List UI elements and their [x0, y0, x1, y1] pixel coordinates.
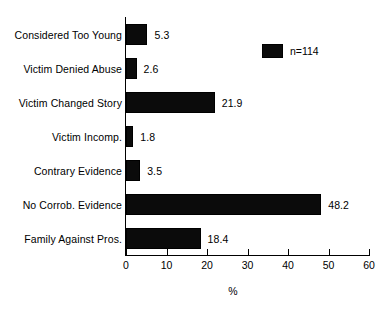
x-axis-tick: [369, 249, 370, 256]
category-label: Considered Too Young: [15, 29, 122, 41]
x-axis-tick-label: 50: [323, 259, 335, 271]
x-axis-tick: [167, 249, 168, 256]
bar-value-label: 18.4: [208, 233, 229, 245]
x-axis-title: %: [0, 285, 378, 297]
category-label: Victim Changed Story: [19, 97, 122, 109]
x-axis-tick-label: 60: [363, 259, 375, 271]
x-axis-tick-label: 0: [123, 259, 129, 271]
bar-value-label: 2.6: [144, 63, 159, 75]
bar: [126, 194, 321, 215]
y-axis-line: [125, 17, 126, 256]
bar-chart: Considered Too Young Victim Denied Abuse…: [0, 0, 378, 312]
x-axis-title-text: %: [228, 285, 237, 297]
x-axis-tick: [207, 249, 208, 256]
bar-value-label: 5.3: [154, 29, 169, 41]
x-axis-tick-label: 30: [242, 259, 254, 271]
x-axis-tick: [248, 249, 249, 256]
bar: [126, 126, 133, 147]
category-label: Contrary Evidence: [34, 165, 122, 177]
category-label: Victim Denied Abuse: [23, 63, 122, 75]
bar: [126, 228, 201, 249]
bar: [126, 92, 215, 113]
x-axis-tick-label: 20: [201, 259, 213, 271]
category-label: Victim Incomp.: [52, 131, 122, 143]
x-axis-tick: [329, 249, 330, 256]
x-axis-tick: [288, 249, 289, 256]
bar-value-label: 48.2: [328, 199, 349, 211]
bar-value-label: 21.9: [222, 97, 243, 109]
category-label: Family Against Pros.: [24, 233, 122, 245]
legend: n=114: [262, 44, 319, 58]
legend-swatch: [262, 44, 283, 58]
bar: [126, 58, 137, 79]
legend-label: n=114: [290, 45, 319, 57]
x-axis-tick-label: 10: [161, 259, 173, 271]
x-axis-tick-label: 40: [282, 259, 294, 271]
bar: [126, 160, 140, 181]
bar-value-label: 1.8: [140, 131, 155, 143]
bar: [126, 24, 147, 45]
x-axis-tick: [126, 249, 127, 256]
category-label: No Corrob. Evidence: [23, 199, 122, 211]
bar-value-label: 3.5: [147, 165, 162, 177]
